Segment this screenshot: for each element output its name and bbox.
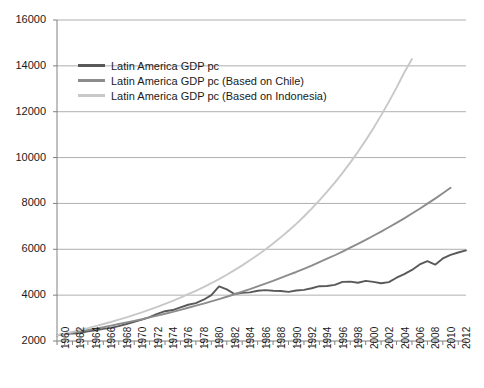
y-axis-tick-label: 10000 (0, 152, 46, 163)
x-axis-tick-label: 1972 (154, 327, 164, 349)
x-axis-tick-label: 1998 (354, 327, 364, 349)
chart-container: 160001400012000100008000600040002000 196… (0, 0, 484, 388)
legend-swatch-series-0 (78, 64, 105, 67)
x-axis-tick-label: 1980 (215, 327, 225, 349)
y-tick-marks (53, 20, 57, 341)
x-axis-tick-label: 2010 (447, 327, 457, 349)
x-axis-tick-label: 1978 (200, 327, 210, 349)
y-axis-tick-label: 2000 (0, 335, 46, 346)
y-axis-tick-label: 4000 (0, 289, 46, 300)
x-axis-tick-label: 2012 (462, 327, 472, 349)
x-axis-tick-label: 1996 (339, 327, 349, 349)
series-line-0 (57, 250, 466, 335)
series-line-1 (57, 188, 451, 335)
x-axis-tick-label: 2006 (416, 327, 426, 349)
x-axis-tick-label: 1982 (231, 327, 241, 349)
y-axis-tick-label: 6000 (0, 243, 46, 254)
y-axis-tick-label: 8000 (0, 197, 46, 208)
y-axis-tick-label: 16000 (0, 14, 46, 25)
x-axis-tick-label: 1962 (76, 327, 86, 349)
x-axis-tick-label: 1992 (308, 327, 318, 349)
legend-item: Latin America GDP pc (Based on Indonesia… (78, 88, 327, 103)
x-axis-tick-label: 1986 (262, 327, 272, 349)
legend-swatch-series-1 (78, 79, 105, 82)
legend-label-series-1: Latin America GDP pc (Based on Chile) (111, 75, 304, 87)
x-axis-tick-label: 1970 (138, 327, 148, 349)
x-axis-tick-label: 2000 (370, 327, 380, 349)
x-axis-tick-label: 2008 (431, 327, 441, 349)
x-axis-tick-label: 1964 (92, 327, 102, 349)
legend-item: Latin America GDP pc (Based on Chile) (78, 73, 327, 88)
x-axis-tick-label: 2002 (385, 327, 395, 349)
legend-swatch-series-2 (78, 94, 105, 97)
legend-label-series-2: Latin America GDP pc (Based on Indonesia… (111, 90, 327, 102)
legend-label-series-0: Latin America GDP pc (111, 60, 219, 72)
x-axis-tick-label: 1968 (123, 327, 133, 349)
y-axis-tick-label: 14000 (0, 60, 46, 71)
x-axis-tick-label: 1960 (61, 327, 71, 349)
x-axis-tick-label: 1966 (107, 327, 117, 349)
x-axis-tick-label: 1988 (277, 327, 287, 349)
legend-item: Latin America GDP pc (78, 58, 327, 73)
chart-legend: Latin America GDP pc Latin America GDP p… (78, 58, 327, 103)
x-axis-tick-label: 2004 (401, 327, 411, 349)
x-axis-tick-label: 1974 (169, 327, 179, 349)
x-axis-tick-label: 1994 (323, 327, 333, 349)
x-axis-tick-label: 1990 (293, 327, 303, 349)
x-axis-tick-label: 1976 (184, 327, 194, 349)
y-axis-tick-label: 12000 (0, 106, 46, 117)
x-axis-tick-label: 1984 (246, 327, 256, 349)
